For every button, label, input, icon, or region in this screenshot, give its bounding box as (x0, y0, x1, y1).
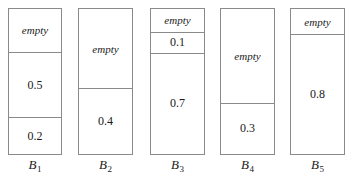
bin-2-label-base: B (99, 157, 107, 172)
bin-5-label-base: B (311, 157, 319, 172)
bin-3-item-1: 0.1 (151, 32, 204, 53)
bin-1-item-2: 0.2 (9, 117, 61, 154)
bin-2: empty0.4 (78, 8, 133, 155)
bin-3-item-2: 0.7 (151, 53, 204, 154)
bin-1: empty0.50.2 (8, 8, 62, 155)
bin-3-label-subscript: 3 (179, 164, 184, 174)
bin-1-label: B1 (8, 157, 62, 174)
bin-2-label-subscript: 2 (107, 164, 112, 174)
bin-3-label: B3 (150, 157, 205, 174)
bin-3-empty-space: empty (151, 9, 204, 32)
bin-4-label-subscript: 4 (249, 164, 254, 174)
bin-5: empty0.8 (290, 8, 345, 155)
bin-2-empty-space: empty (79, 9, 132, 88)
bin-2-label: B2 (78, 157, 133, 174)
bin-4-label-base: B (241, 157, 249, 172)
bin-5-label: B5 (290, 157, 345, 174)
bin-packing-figure: empty0.50.2B1empty0.4B2empty0.10.7B3empt… (0, 0, 352, 177)
bin-1-label-subscript: 1 (36, 164, 41, 174)
bin-5-empty-space: empty (291, 9, 344, 34)
bin-3-label-base: B (171, 157, 179, 172)
bin-4-label: B4 (220, 157, 275, 174)
bin-4-empty-space: empty (221, 9, 274, 103)
bin-4: empty0.3 (220, 8, 275, 155)
bin-4-item-1: 0.3 (221, 103, 274, 154)
bin-1-item-1: 0.5 (9, 52, 61, 117)
bin-2-item-1: 0.4 (79, 88, 132, 154)
bin-5-item-1: 0.8 (291, 34, 344, 154)
bin-5-label-subscript: 5 (319, 164, 324, 174)
bin-1-empty-space: empty (9, 9, 61, 52)
bin-3: empty0.10.7 (150, 8, 205, 155)
